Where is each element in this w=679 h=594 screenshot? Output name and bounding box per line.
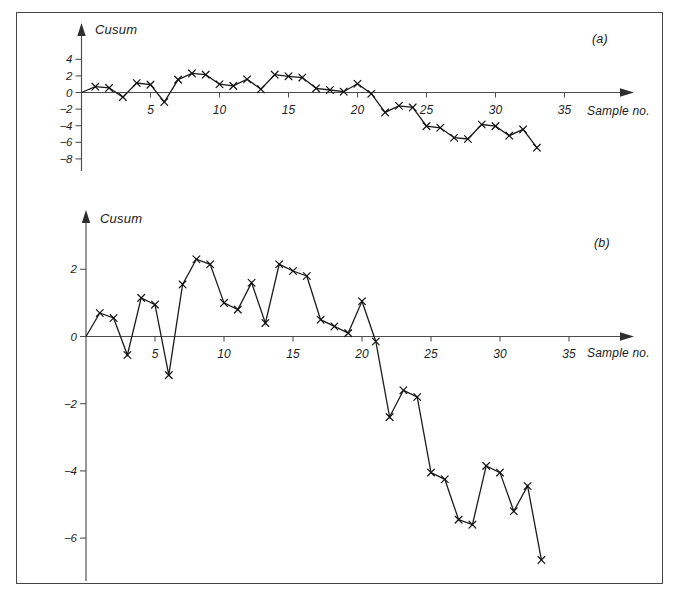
- data-point-marker-b: [193, 256, 200, 263]
- y-tick-label-a: −4: [59, 120, 72, 132]
- y-tick-label-a: −2: [59, 103, 73, 115]
- x-tick-label-b: 5: [152, 347, 159, 361]
- data-point-marker-b: [303, 273, 310, 280]
- panel-b: 20−2−4−65101520253035: [64, 210, 634, 581]
- x-tick-label-b: 35: [562, 347, 576, 361]
- data-point-marker-a: [161, 99, 168, 106]
- panel-label-a: (a): [592, 32, 608, 46]
- y-tick-label-a: −6: [59, 136, 73, 148]
- x-tick-label-b: 30: [493, 347, 507, 361]
- x-axis-arrowhead-icon-a: [620, 88, 634, 97]
- ylabel-panel-a: Cusum: [95, 22, 137, 37]
- data-point-marker-b: [455, 516, 462, 523]
- data-point-marker-a: [506, 132, 513, 139]
- data-point-marker-b: [497, 469, 504, 476]
- xlabel-panel-b: Sample no.: [587, 346, 650, 360]
- data-point-marker-b: [290, 268, 297, 275]
- x-tick-label-b: 20: [354, 347, 369, 361]
- figure: 420−2−4−6−8510152025303520−2−4−651015202…: [0, 0, 679, 594]
- data-point-marker-b: [510, 508, 517, 515]
- data-point-marker-a: [258, 86, 265, 93]
- data-point-marker-b: [400, 387, 407, 394]
- y-tick-label-a: 2: [65, 70, 73, 82]
- y-axis-arrowhead-icon-b: [82, 210, 90, 223]
- data-point-marker-a: [368, 90, 375, 97]
- x-tick-label-b: 15: [286, 347, 300, 361]
- cusum-charts-canvas: 420−2−4−6−8510152025303520−2−4−651015202…: [0, 0, 679, 594]
- y-tick-label-b: −2: [64, 398, 78, 410]
- data-point-marker-b: [96, 310, 103, 317]
- x-tick-label-a: 20: [350, 103, 365, 117]
- data-point-marker-b: [248, 279, 255, 286]
- data-point-marker-a: [244, 76, 251, 83]
- y-tick-label-b: −4: [64, 465, 77, 477]
- x-tick-label-a: 30: [489, 103, 503, 117]
- ylabel-panel-b: Cusum: [100, 211, 142, 226]
- xlabel-panel-a: Sample no.: [587, 104, 650, 118]
- x-axis-arrowhead-icon-b: [620, 332, 634, 341]
- x-tick-label-a: 15: [282, 103, 296, 117]
- x-tick-label-a: 10: [213, 103, 227, 117]
- data-point-marker-b: [317, 316, 324, 323]
- x-tick-label-b: 25: [423, 347, 438, 361]
- y-axis-arrowhead-icon-a: [77, 23, 85, 36]
- x-tick-label-a: 35: [558, 103, 572, 117]
- panel-a: 420−2−4−6−85101520253035: [59, 23, 634, 171]
- data-point-marker-b: [221, 300, 228, 307]
- data-point-marker-b: [345, 330, 352, 337]
- data-point-marker-b: [110, 315, 117, 322]
- data-point-marker-b: [441, 476, 448, 483]
- data-point-marker-b: [331, 323, 338, 330]
- y-tick-label-a: −8: [59, 153, 73, 165]
- y-tick-label-a: 4: [66, 53, 72, 65]
- data-point-marker-a: [175, 76, 182, 83]
- data-point-marker-b: [359, 298, 366, 305]
- data-point-marker-a: [354, 80, 361, 87]
- data-point-marker-a: [120, 94, 127, 101]
- data-point-marker-b: [234, 306, 241, 313]
- y-tick-label-b: −6: [64, 532, 78, 544]
- x-tick-label-a: 25: [419, 103, 434, 117]
- y-tick-label-b: 2: [70, 263, 78, 275]
- y-tick-label-b: 0: [71, 331, 78, 343]
- data-point-marker-b: [207, 261, 214, 268]
- y-tick-label-a: 0: [66, 87, 73, 99]
- panel-label-b: (b): [594, 236, 610, 250]
- x-tick-label-b: 10: [217, 347, 231, 361]
- data-point-marker-a: [534, 144, 541, 151]
- x-tick-label-a: 5: [147, 103, 154, 117]
- data-point-marker-a: [382, 109, 389, 116]
- data-point-marker-a: [520, 126, 527, 133]
